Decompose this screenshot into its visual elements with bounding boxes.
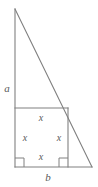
label-square-left-side: x (23, 133, 27, 143)
label-vertical-leg: a (4, 83, 10, 94)
label-square-right-side: x (57, 133, 61, 143)
label-horizontal-leg: b (45, 172, 51, 183)
label-square-top-side: x (39, 113, 43, 123)
geometry-figure: a b x x x x (0, 0, 98, 187)
figure-canvas (0, 0, 98, 187)
label-square-bottom-side: x (39, 152, 43, 162)
